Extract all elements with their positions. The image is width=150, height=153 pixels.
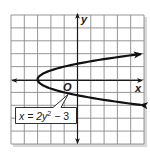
y-axis-label: y [80, 13, 88, 25]
parabola-graph: y x O x = 2y2 − 3 [0, 0, 150, 153]
x-axis-label: x [134, 82, 142, 94]
equation-label: x = 2y2 − 3 [18, 110, 69, 122]
origin-label: O [63, 81, 72, 93]
